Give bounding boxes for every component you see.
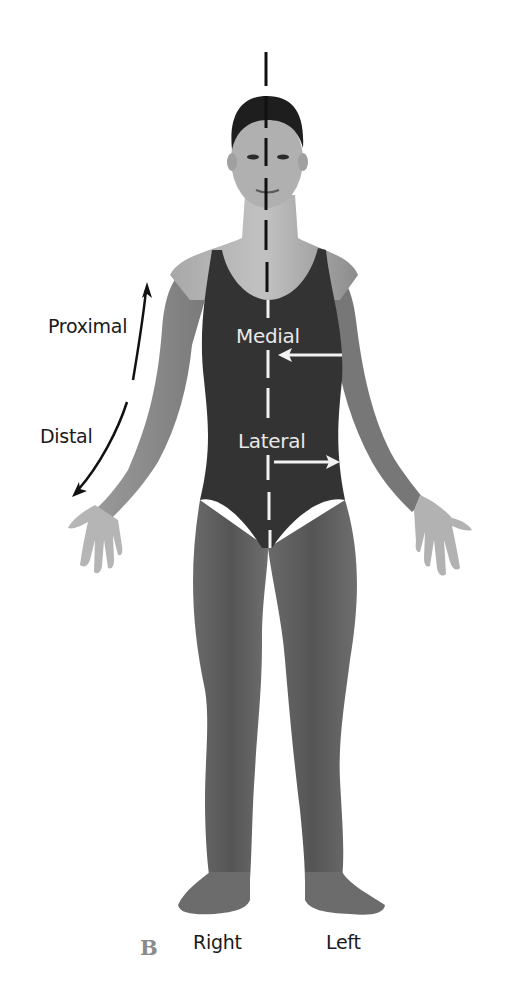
- proximal-label: Proximal: [48, 315, 127, 337]
- right-side-label: Right: [193, 931, 242, 953]
- human-figure-illustration: [0, 0, 508, 1005]
- proximal-arrow: [133, 282, 152, 380]
- legs: [178, 500, 385, 915]
- medial-label: Medial: [236, 324, 300, 348]
- right-arm: [68, 262, 205, 573]
- panel-letter: B: [140, 935, 158, 960]
- anatomical-directional-terms-figure: Proximal Distal Medial Lateral B Right L…: [0, 0, 508, 1005]
- distal-arrow: [72, 402, 127, 497]
- lateral-label: Lateral: [238, 429, 305, 453]
- left-side-label: Left: [326, 931, 361, 953]
- distal-label: Distal: [40, 425, 92, 447]
